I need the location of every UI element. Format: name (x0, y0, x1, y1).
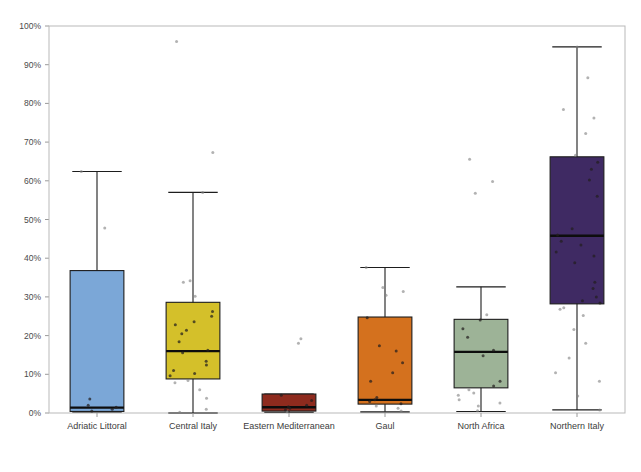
data-point (595, 295, 598, 298)
data-point (482, 354, 485, 357)
data-point (592, 254, 595, 257)
x-axis-tick-label: Adriatic Littoral (67, 421, 127, 431)
y-axis-tick-label: 90% (24, 60, 41, 70)
data-point (593, 281, 596, 284)
box-plot-adriatic-littoral (70, 170, 124, 413)
data-point (397, 407, 400, 410)
data-point (182, 281, 185, 284)
data-point (582, 314, 585, 317)
data-point (476, 409, 479, 412)
box-plot-northern-italy (550, 45, 604, 411)
data-point (485, 313, 488, 316)
box-iqr-rect (166, 302, 220, 379)
data-point (498, 401, 501, 404)
data-point (395, 350, 398, 353)
data-point (391, 371, 394, 374)
data-point (180, 332, 183, 335)
data-point (401, 361, 404, 364)
data-point (210, 315, 213, 318)
data-point (198, 388, 201, 391)
data-point (103, 227, 106, 230)
data-point (584, 342, 587, 345)
y-axis-tick-label: 20% (24, 331, 41, 341)
data-point (555, 251, 558, 254)
data-point (169, 374, 172, 377)
data-point (579, 244, 582, 247)
data-point (280, 394, 283, 397)
data-point (284, 408, 287, 411)
data-point (492, 349, 495, 352)
box-plot-group (70, 40, 604, 414)
data-point (458, 398, 461, 401)
y-axis-tick-label: 60% (24, 176, 41, 186)
data-point (368, 400, 371, 403)
data-point (178, 411, 181, 414)
boxplot-chart-figure: 0%10%20%30%40%50%60%70%80%90%100% Adriat… (0, 0, 641, 472)
data-point (592, 287, 595, 290)
data-point (385, 294, 388, 297)
box-plot-gaul (358, 266, 412, 413)
data-point (474, 192, 477, 195)
data-point (369, 380, 372, 383)
data-point (562, 306, 565, 309)
box-iqr-rect (358, 317, 412, 404)
x-axis-tick-label: Central Italy (169, 421, 218, 431)
plot-frame (49, 26, 625, 413)
data-point (461, 327, 464, 330)
data-point (297, 342, 300, 345)
data-point (477, 405, 480, 408)
data-point (556, 233, 559, 236)
y-axis-tick-label: 50% (24, 215, 41, 225)
data-point (189, 279, 192, 282)
x-axis-tick-label: Eastern Mediterranean (243, 421, 335, 431)
data-point (205, 360, 208, 363)
data-point (598, 380, 601, 383)
data-point (402, 290, 405, 293)
data-point (194, 295, 197, 298)
data-point (378, 344, 381, 347)
data-point (211, 310, 214, 313)
data-point (185, 329, 188, 332)
y-axis-tick-label: 10% (24, 369, 41, 379)
data-point (598, 408, 601, 411)
data-point (211, 151, 214, 154)
y-axis-tick-label: 100% (19, 21, 41, 31)
data-point (588, 179, 591, 182)
data-point (172, 369, 175, 372)
data-point (115, 406, 118, 409)
y-axis-tick-label: 0% (29, 408, 42, 418)
data-point (173, 381, 176, 384)
plot-canvas: 0%10%20%30%40%50%60%70%80%90%100% Adriat… (0, 0, 641, 472)
data-point (586, 76, 589, 79)
data-point (174, 323, 177, 326)
data-point (201, 191, 204, 194)
data-point (562, 108, 565, 111)
data-point (366, 316, 369, 319)
data-point (205, 397, 208, 400)
box-iqr-rect (70, 271, 124, 412)
data-point (554, 371, 557, 374)
data-point (206, 349, 209, 352)
data-point (572, 328, 575, 331)
data-point (568, 357, 571, 360)
data-point (574, 154, 577, 157)
box-plot-central-italy (166, 40, 220, 414)
data-point (472, 391, 475, 394)
x-axis-tick-label: North Africa (457, 421, 504, 431)
data-point (310, 399, 313, 402)
data-point (592, 117, 595, 120)
data-point (573, 261, 576, 264)
data-point (491, 180, 494, 183)
data-point (287, 405, 290, 408)
data-point (590, 168, 593, 171)
box-plot-eastern-mediterranean (262, 337, 316, 413)
data-point (479, 319, 482, 322)
data-point (576, 45, 579, 48)
data-point (560, 240, 563, 243)
data-point (90, 410, 93, 413)
data-point (571, 227, 574, 230)
data-point (305, 404, 308, 407)
y-axis-tick-label: 70% (24, 137, 41, 147)
data-point (373, 398, 376, 401)
data-point (87, 404, 90, 407)
